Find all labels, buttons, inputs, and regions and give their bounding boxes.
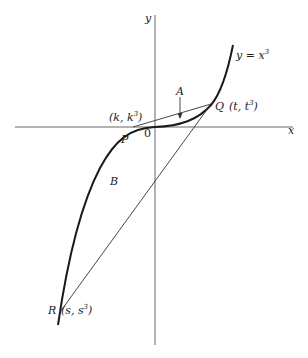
point-r-label: R [47, 304, 56, 317]
curve-equation-label: y = x3 [235, 48, 270, 62]
cubic-curve [58, 45, 233, 325]
x-axis-label: x [288, 124, 295, 137]
point-p-coords: (k, k3) [109, 110, 142, 124]
region-a-label: A [175, 85, 184, 98]
point-p-label: P [120, 133, 129, 146]
point-q-label: Q [215, 100, 224, 113]
y-axis-label: y [144, 12, 152, 25]
cubic-curve-diagram: y x 0 y = x3 A B P (k, k3) Q (t, t3) R (… [0, 0, 308, 358]
origin-label: 0 [144, 127, 151, 140]
region-b-label: B [109, 175, 118, 188]
arrowhead-icon [178, 113, 183, 119]
point-q-coords: (t, t3) [229, 99, 258, 113]
point-r-coords: (s, s3) [61, 303, 92, 317]
